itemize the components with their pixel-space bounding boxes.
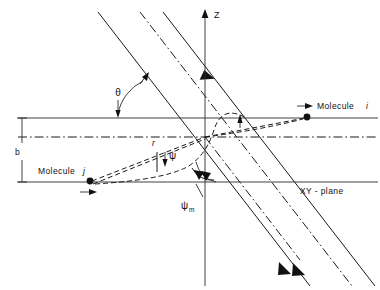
trajectory-line-left bbox=[98, 12, 310, 286]
molecule-j-label: Molecule bbox=[38, 166, 75, 176]
impact-parameter-group: b bbox=[15, 118, 27, 182]
direction-arrow-lower-a-icon bbox=[278, 262, 291, 275]
direction-arrow-lower-b-icon bbox=[292, 263, 305, 276]
figure-container: Z b θ Molecule i bbox=[0, 0, 380, 290]
secondary-relative-dashed-lower bbox=[93, 139, 205, 184]
molecule-i-group: Molecule i bbox=[297, 101, 369, 120]
xy-plane-label: XY - plane bbox=[300, 186, 344, 196]
trajectory-line-right bbox=[163, 12, 375, 286]
molecule-j-velocity-arrow-icon bbox=[89, 189, 97, 195]
theta-label: θ bbox=[115, 87, 121, 98]
theta-angle-group: θ bbox=[115, 72, 149, 118]
trajectory-line-origin-dashdot bbox=[205, 137, 300, 260]
impact-parameter-label: b bbox=[15, 147, 20, 157]
psi-m-subscript-label: m bbox=[189, 206, 195, 213]
molecule-i-velocity-arrow-icon bbox=[305, 103, 313, 109]
molecule-i-marker bbox=[304, 114, 311, 121]
collision-geometry-diagram: Z b θ Molecule i bbox=[0, 0, 380, 290]
psi-m-leader bbox=[196, 184, 203, 197]
separation-label: r bbox=[152, 138, 156, 148]
theta-arc bbox=[118, 81, 143, 114]
molecule-i-label: Molecule bbox=[317, 101, 354, 111]
trajectory-line-middle-dashdot bbox=[140, 12, 352, 286]
trajectory-direction-arrows bbox=[198, 69, 305, 276]
z-axis-group: Z bbox=[202, 9, 220, 286]
molecule-i-index-label: i bbox=[366, 101, 369, 111]
psi-m-angle-group: ψ m bbox=[181, 162, 216, 213]
molecule-j-group: Molecule j bbox=[38, 166, 97, 195]
z-axis-label: Z bbox=[214, 10, 220, 20]
origin-to-molecule-i-dashed bbox=[205, 118, 305, 137]
r-vector-line bbox=[92, 137, 205, 181]
trajectory-lines-group bbox=[98, 12, 375, 286]
molecule-j-index-label: j bbox=[82, 166, 86, 176]
psi-label: ψ bbox=[169, 150, 176, 161]
z-axis-arrow-icon bbox=[202, 9, 209, 18]
psi-m-label: ψ bbox=[181, 200, 188, 211]
theta-lower-arrow-icon bbox=[115, 110, 120, 118]
psi-arrow-icon bbox=[162, 159, 167, 167]
